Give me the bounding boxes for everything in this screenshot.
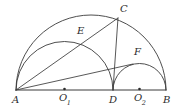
- semicircle-db-arc: [113, 64, 166, 91]
- semicircle-ab-arc: [16, 15, 166, 90]
- point-label-o1-sub: 1: [67, 99, 71, 107]
- point-label-d: D: [109, 95, 117, 105]
- semicircle-ad-arc: [16, 42, 113, 91]
- point-label-o2-main: O: [134, 92, 142, 103]
- point-label-e: E: [77, 26, 84, 36]
- point-label-c: C: [120, 4, 128, 14]
- center-dot-o2: [138, 88, 141, 91]
- point-label-o2-sub: 2: [142, 99, 146, 107]
- geometry-figure: A B C D E F O1 O2: [0, 0, 178, 112]
- point-label-f: F: [134, 47, 141, 57]
- point-label-a: A: [12, 95, 19, 105]
- point-label-o1-main: O: [59, 92, 67, 103]
- center-dot-o1: [63, 88, 66, 91]
- segment-af: [16, 64, 133, 90]
- point-label-b: B: [163, 95, 170, 105]
- point-label-o1: O1: [59, 93, 71, 106]
- segment-ac: [16, 18, 118, 90]
- point-label-o2: O2: [134, 93, 146, 106]
- figure-canvas: [0, 0, 178, 112]
